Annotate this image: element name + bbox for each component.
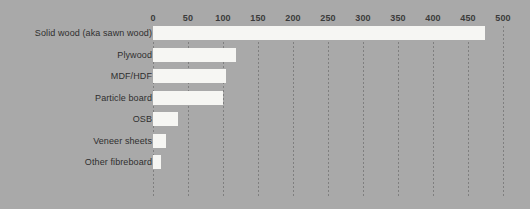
x-tick-label-300: 300 <box>355 10 371 26</box>
x-tick-label-200: 200 <box>285 10 301 26</box>
bar <box>153 91 223 105</box>
category-label: Plywood <box>117 48 152 62</box>
bar-row: Veneer sheets <box>0 134 530 156</box>
category-label: Veneer sheets <box>93 134 152 148</box>
x-tick-label-450: 450 <box>460 10 476 26</box>
x-axis-tick-labels: 050100150200250300350400450500 <box>0 10 530 26</box>
bar-row: Solid wood (aka sawn wood) <box>0 26 530 48</box>
bar-row: Other fibreboard <box>0 155 530 177</box>
category-label: Particle board <box>95 91 152 105</box>
bar <box>153 134 166 148</box>
category-label: Other fibreboard <box>85 155 152 169</box>
category-label: OSB <box>133 112 152 126</box>
bar <box>153 26 485 40</box>
bar <box>153 112 178 126</box>
x-tick-label-350: 350 <box>390 10 406 26</box>
x-tick-label-150: 150 <box>250 10 266 26</box>
x-tick-label-100: 100 <box>215 10 231 26</box>
x-tick-label-400: 400 <box>425 10 441 26</box>
x-tick-label-250: 250 <box>320 10 336 26</box>
bar <box>153 48 236 62</box>
bar-rows: Solid wood (aka sawn wood)PlywoodMDF/HDF… <box>0 26 530 177</box>
bar-chart: 050100150200250300350400450500 Solid woo… <box>0 0 530 209</box>
bar <box>153 155 161 169</box>
x-tick-label-0: 0 <box>150 10 155 26</box>
category-label: MDF/HDF <box>111 69 152 83</box>
bar-row: MDF/HDF <box>0 69 530 91</box>
x-tick-label-500: 500 <box>495 10 511 26</box>
bar <box>153 69 226 83</box>
bar-row: Particle board <box>0 91 530 113</box>
category-label: Solid wood (aka sawn wood) <box>35 26 152 40</box>
x-tick-label-50: 50 <box>183 10 193 26</box>
bar-row: Plywood <box>0 48 530 70</box>
bar-row: OSB <box>0 112 530 134</box>
